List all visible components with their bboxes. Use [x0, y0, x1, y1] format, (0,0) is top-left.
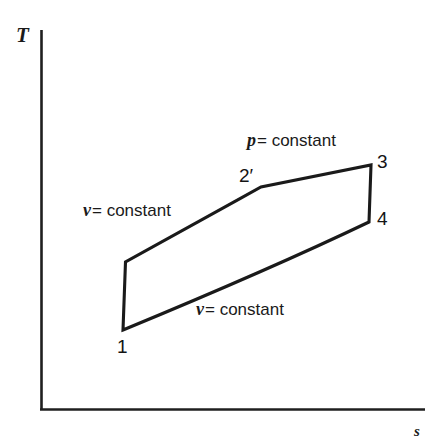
process-label-p-constant: p= constant — [247, 131, 336, 149]
y-axis-label: T — [16, 25, 29, 46]
state-point-2-prime-mark: ′ — [250, 165, 254, 186]
process-variable-v-upper: v — [83, 200, 92, 220]
state-point-label-2-prime: 2′ — [239, 166, 253, 185]
process-label-v-constant-upper: v= constant — [83, 201, 171, 219]
state-point-label-4: 4 — [377, 209, 388, 228]
figure-canvas: T s 1 2′ 3 4 p= constant v= constant v= … — [0, 0, 447, 446]
process-text-v-constant-upper: = constant — [92, 201, 171, 220]
process-text-p-constant: = constant — [257, 131, 336, 150]
state-point-2-numeral: 2 — [239, 165, 250, 186]
process-text-v-constant-lower: = constant — [205, 300, 284, 319]
process-label-v-constant-lower: v= constant — [196, 300, 284, 318]
x-axis-label: s — [414, 424, 420, 439]
process-variable-p: p — [247, 130, 257, 150]
process-variable-v-lower: v — [196, 299, 205, 319]
state-point-label-3: 3 — [377, 152, 388, 171]
state-point-label-1: 1 — [117, 337, 128, 356]
